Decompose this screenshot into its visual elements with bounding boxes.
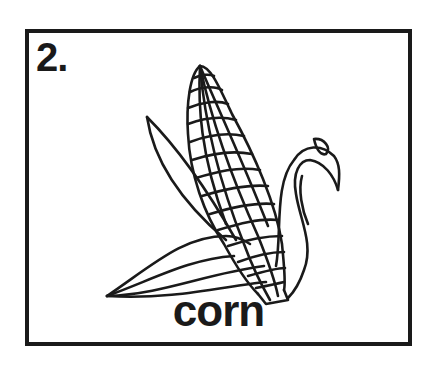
flashcard: 2.	[25, 29, 412, 346]
card-word: corn	[29, 289, 408, 333]
